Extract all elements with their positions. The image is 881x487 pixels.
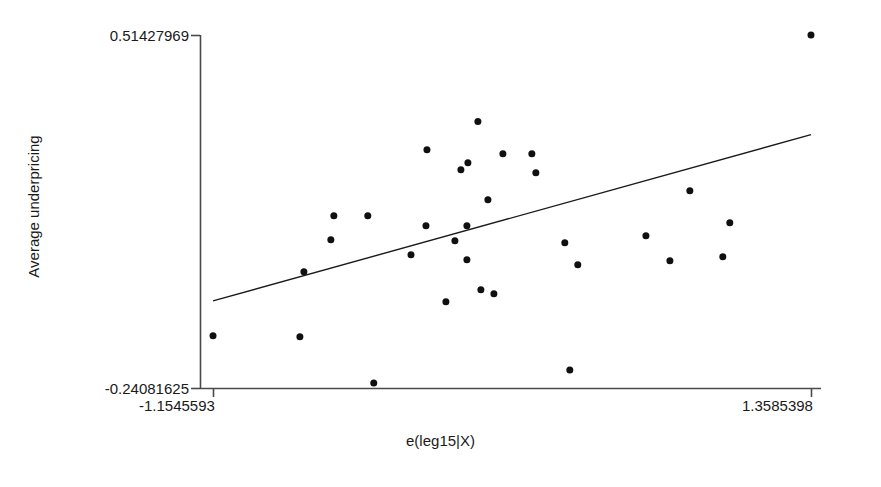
- scatter-point: [364, 212, 371, 219]
- scatter-point: [490, 290, 497, 297]
- x-axis-tick-label-right: 1.3585398: [742, 398, 813, 413]
- scatter-point: [442, 298, 449, 305]
- scatter-point: [464, 159, 471, 166]
- scatter-point: [451, 237, 458, 244]
- scatter-point: [719, 253, 726, 260]
- x-axis-tick-label-left: -1.1545593: [139, 398, 215, 413]
- y-axis-title: Average underpricing: [25, 97, 42, 317]
- scatter-point: [484, 196, 491, 203]
- fit-line-segment: [213, 135, 811, 301]
- scatter-point: [300, 268, 307, 275]
- scatter-point: [407, 251, 414, 258]
- scatter-point: [457, 166, 464, 173]
- scatter-point: [422, 222, 429, 229]
- scatter-point: [296, 333, 303, 340]
- scatter-point: [561, 239, 568, 246]
- scatter-point: [666, 257, 673, 264]
- regression-fit-line: [213, 135, 811, 301]
- scatter-point: [463, 256, 470, 263]
- scatter-point: [807, 31, 814, 38]
- scatter-point: [642, 232, 649, 239]
- scatter-point: [477, 286, 484, 293]
- scatter-point: [327, 236, 334, 243]
- scatter-point: [686, 187, 693, 194]
- scatter-point: [474, 118, 481, 125]
- scatter-point: [499, 150, 506, 157]
- scatter-point: [574, 261, 581, 268]
- scatter-point: [463, 222, 470, 229]
- axis-lines: [191, 35, 821, 397]
- scatter-point: [423, 146, 430, 153]
- scatter-points: [210, 31, 815, 386]
- scatter-point: [726, 219, 733, 226]
- x-axis-title: e(leg15|X): [0, 432, 881, 449]
- scatter-point: [528, 150, 535, 157]
- y-axis-tick-label-bottom: -0.24081625: [105, 381, 189, 396]
- scatter-point: [370, 379, 377, 386]
- y-axis-tick-label-top: 0.51427969: [110, 28, 189, 43]
- chart-figure: 0.51427969 -0.24081625 -1.1545593 1.3585…: [0, 0, 881, 487]
- scatter-point: [566, 366, 573, 373]
- scatter-point: [330, 212, 337, 219]
- scatter-point: [532, 169, 539, 176]
- scatter-point: [210, 332, 217, 339]
